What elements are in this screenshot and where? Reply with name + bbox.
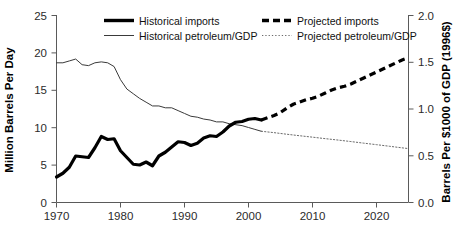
x-axis-ticks <box>57 203 377 208</box>
left-tick-label: 0 <box>41 197 47 209</box>
right-tick-label: 0.0 <box>418 197 434 209</box>
left-axis-title: Million Barrels Per Day <box>3 47 15 173</box>
right-tick-label: 0.5 <box>418 150 434 162</box>
legend-label-historical-petroleum-gdp: Historical petroleum/GDP <box>139 30 257 42</box>
series-historical-petroleum-gdp <box>57 59 262 131</box>
series-group <box>57 58 409 177</box>
right-axis-tick-labels: 2.0 1.5 1.0 0.5 0.0 <box>418 10 434 209</box>
x-tick-label: 1980 <box>108 210 134 222</box>
chart-canvas: 25 20 15 10 5 0 2.0 1.5 1.0 0.5 0.0 <box>0 0 461 232</box>
legend: Historical imports Historical petroleum/… <box>104 15 417 42</box>
left-axis-tick-labels: 25 20 15 10 5 0 <box>34 10 47 209</box>
series-historical-imports <box>57 119 262 178</box>
series-projected-petroleum-gdp <box>261 131 408 148</box>
x-tick-label: 2000 <box>236 210 262 222</box>
legend-label-projected-imports: Projected imports <box>297 15 379 27</box>
left-tick-label: 25 <box>34 10 47 22</box>
x-axis-tick-labels: 1970 1980 1990 2000 2010 2020 <box>44 210 390 222</box>
left-tick-label: 15 <box>34 84 47 96</box>
series-projected-imports <box>261 58 408 120</box>
legend-label-projected-petroleum-gdp: Projected petroleum/GDP <box>297 30 417 42</box>
legend-label-historical-imports: Historical imports <box>139 15 220 27</box>
left-tick-label: 5 <box>41 159 47 171</box>
left-axis-ticks <box>52 16 57 203</box>
right-axis-ticks <box>409 16 414 203</box>
right-tick-label: 2.0 <box>418 10 434 22</box>
x-tick-label: 2010 <box>300 210 326 222</box>
chart-container: 25 20 15 10 5 0 2.0 1.5 1.0 0.5 0.0 <box>0 0 461 232</box>
left-tick-label: 10 <box>34 122 47 134</box>
x-tick-label: 1990 <box>172 210 198 222</box>
x-tick-label: 1970 <box>44 210 70 222</box>
left-tick-label: 20 <box>34 47 47 59</box>
right-tick-label: 1.5 <box>418 56 434 68</box>
right-axis-title: Barrels Per $1000 of GDP (1996$) <box>440 21 452 203</box>
x-tick-label: 2020 <box>364 210 390 222</box>
right-tick-label: 1.0 <box>418 103 434 115</box>
